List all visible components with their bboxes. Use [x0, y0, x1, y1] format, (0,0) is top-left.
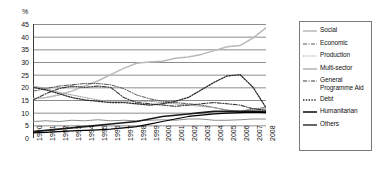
x-tick-label: 1999 — [153, 125, 160, 141]
legend-item[interactable]: Production — [303, 51, 369, 60]
x-tick-label: 1990 — [36, 125, 43, 141]
x-tick-label: 1997 — [127, 125, 134, 141]
x-tick-label: 2002 — [191, 125, 198, 141]
x-tick-label: 2003 — [204, 125, 211, 141]
legend-item-label: Social — [320, 26, 337, 34]
legend-item-label: Debt — [320, 95, 333, 103]
x-tick-label: 1994 — [88, 125, 95, 141]
x-tick-label: 2008 — [269, 125, 276, 141]
legend-item[interactable]: Multi-sector — [303, 64, 369, 73]
legend-item[interactable]: Humanitarian — [303, 107, 369, 116]
legend-item[interactable]: General Programme Aid — [303, 76, 369, 91]
legend-item-label: Humanitarian — [320, 107, 357, 115]
legend-swatch-icon — [303, 108, 317, 116]
legend-item[interactable]: Social — [303, 26, 369, 35]
legend-item-label: Others — [320, 120, 339, 128]
x-tick-label: 1993 — [75, 125, 82, 141]
legend-item[interactable]: Others — [303, 120, 369, 129]
x-tick-label: 1996 — [114, 125, 121, 141]
legend-item-label: General Programme Aid — [320, 76, 369, 91]
x-tick-label: 2006 — [243, 125, 250, 141]
legend-item-label: Production — [320, 51, 350, 59]
legend-item[interactable]: Economic — [303, 39, 369, 48]
legend-swatch-icon — [303, 27, 317, 35]
x-tick-label: 2001 — [178, 125, 185, 141]
legend-swatch-icon — [303, 40, 317, 48]
x-tick-label: 2005 — [230, 125, 237, 141]
x-tick-label: 2004 — [217, 125, 224, 141]
x-tick-label: 1998 — [140, 125, 147, 141]
x-tick-label: 1992 — [62, 125, 69, 141]
x-tick-label: 2000 — [165, 125, 172, 141]
x-tick-label: 2007 — [256, 125, 263, 141]
legend-swatch-icon — [303, 77, 317, 85]
legend-item-label: Multi-sector — [320, 64, 352, 72]
legend-swatch-icon — [303, 65, 317, 73]
chart-legend: SocialEconomicProductionMulti-sectorGene… — [299, 21, 372, 151]
legend-item-label: Economic — [320, 39, 348, 47]
chart-figure: % 454035302520151050 1990199119921993199… — [0, 0, 377, 187]
legend-swatch-icon — [303, 96, 317, 104]
legend-swatch-icon — [303, 121, 317, 129]
legend-swatch-icon — [303, 52, 317, 60]
x-tick-label: 1995 — [101, 125, 108, 141]
x-tick-label: 1991 — [49, 125, 56, 141]
legend-item[interactable]: Debt — [303, 95, 369, 104]
